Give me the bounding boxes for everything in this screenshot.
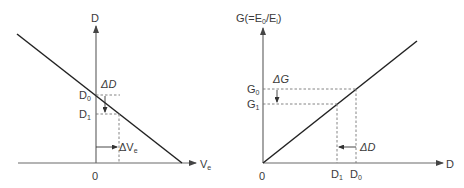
left-origin-label: 0 xyxy=(92,170,98,182)
left-x-axis-label: Ve xyxy=(200,158,211,171)
right-delta-g-label: ΔG xyxy=(272,73,289,85)
left-delta-d-label: ΔD xyxy=(100,78,116,90)
left-diagram: D Ve 0 D0 D1 ΔD ΔVe xyxy=(17,12,211,182)
left-delta-ve-label: ΔVe xyxy=(119,141,138,154)
right-x-axis-label: D xyxy=(446,158,454,170)
right-g0-label: G0 xyxy=(247,83,260,96)
right-g1-label: G1 xyxy=(247,98,260,111)
diagram-canvas: D Ve 0 D0 D1 ΔD ΔVe G(=E0/Ei) D 0 G0 G1 … xyxy=(0,0,464,188)
right-delta-d-label: ΔD xyxy=(359,141,375,153)
left-y-axis-label: D xyxy=(91,12,99,24)
right-d0-label: D0 xyxy=(350,168,362,181)
right-gain-line xyxy=(263,41,417,163)
left-demand-line xyxy=(17,34,182,163)
right-origin-label: 0 xyxy=(259,170,265,182)
left-d1-label: D1 xyxy=(79,108,91,121)
right-d1-label: D1 xyxy=(331,168,343,181)
right-diagram: G(=E0/Ei) D 0 G0 G1 D1 D0 ΔG ΔD xyxy=(236,12,454,182)
right-y-axis-label: G(=E0/Ei) xyxy=(236,12,282,25)
